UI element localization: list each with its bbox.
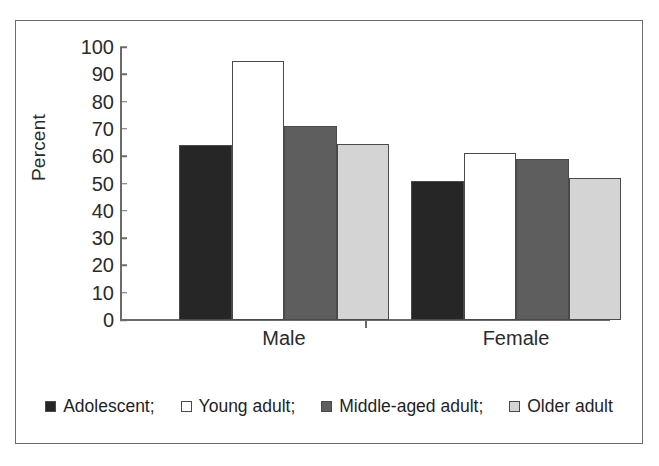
y-axis-tick-label: 40 [92, 201, 114, 221]
bar [337, 144, 390, 320]
legend-label: Middle-aged adult; [339, 396, 483, 417]
y-axis-tick-mark [120, 210, 127, 212]
legend-swatch-icon [45, 401, 56, 412]
y-axis-tick-mark [120, 237, 127, 239]
y-axis-tick-mark [120, 319, 127, 321]
y-axis-tick-mark [120, 155, 127, 157]
legend-item[interactable]: Young adult; [181, 396, 296, 417]
y-axis-tick-label: 80 [92, 92, 114, 112]
y-axis-tick-label: 50 [92, 174, 114, 194]
y-axis-tick-mark [120, 128, 127, 130]
legend-item[interactable]: Middle-aged adult; [321, 396, 483, 417]
bar [569, 178, 622, 320]
bar [232, 61, 285, 320]
y-axis-tick-mark [120, 46, 127, 48]
chart-figure: Percent 1009080706050403020100 MaleFemal… [15, 20, 643, 444]
bar [464, 153, 517, 320]
legend-swatch-icon [181, 401, 192, 412]
bar [516, 159, 569, 320]
bar [411, 181, 464, 320]
plot-area: Percent 1009080706050403020100 MaleFemal… [16, 21, 642, 443]
y-axis-tick-label: 90 [92, 64, 114, 84]
bar-series-container [121, 47, 610, 320]
y-axis-tick-labels: 1009080706050403020100 [68, 47, 120, 319]
chart-legend: Adolescent;Young adult;Middle-aged adult… [16, 389, 642, 423]
legend-label: Young adult; [199, 396, 296, 417]
y-axis-tick-label: 60 [92, 146, 114, 166]
bar-group-female [411, 47, 621, 320]
y-axis-tick-label: 10 [92, 283, 114, 303]
y-axis-tick-mark [120, 183, 127, 185]
legend-swatch-icon [321, 401, 332, 412]
bar [284, 126, 337, 320]
y-axis-tick-label: 0 [103, 310, 114, 330]
y-axis-tick-label: 100 [81, 37, 114, 57]
y-axis-tick-label: 70 [92, 119, 114, 139]
y-axis-tick-label: 30 [92, 228, 114, 248]
x-axis-tick-label: Male [179, 327, 389, 350]
legend-label: Older adult [527, 396, 613, 417]
y-axis-tick-mark [120, 74, 127, 76]
y-axis-tick-mark [120, 292, 127, 294]
y-axis-tick-label: 20 [92, 255, 114, 275]
legend-swatch-icon [509, 401, 520, 412]
legend-item[interactable]: Older adult [509, 396, 613, 417]
legend-item[interactable]: Adolescent; [45, 396, 154, 417]
y-axis-tick-mark [120, 101, 127, 103]
x-axis-tick-label: Female [411, 327, 621, 350]
bar [179, 145, 232, 320]
y-axis-tick-mark [120, 265, 127, 267]
legend-label: Adolescent; [63, 396, 154, 417]
bar-group-male [179, 47, 389, 320]
y-axis-title: Percent [28, 114, 50, 181]
